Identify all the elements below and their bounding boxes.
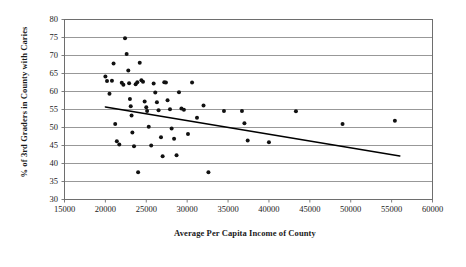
y-tick-label: 40 xyxy=(34,159,58,168)
x-tick-label: 60000 xyxy=(411,205,455,214)
plot-svg xyxy=(64,19,433,200)
data-point xyxy=(172,137,176,141)
data-point xyxy=(242,121,246,125)
data-point xyxy=(147,125,151,129)
data-point xyxy=(153,91,157,95)
plot-area xyxy=(64,19,433,200)
y-tick-label: 50 xyxy=(34,123,58,132)
y-tick-label: 45 xyxy=(34,141,58,150)
data-point xyxy=(123,36,127,40)
x-tick-label: 20000 xyxy=(83,205,127,214)
x-tick-label: 40000 xyxy=(247,205,291,214)
x-tick-label: 30000 xyxy=(165,205,209,214)
data-point xyxy=(267,140,271,144)
data-points xyxy=(103,36,396,174)
y-tick-label: 35 xyxy=(34,177,58,186)
data-point xyxy=(121,83,125,87)
y-tick-label: 65 xyxy=(34,69,58,78)
data-point xyxy=(105,79,109,83)
data-point xyxy=(152,82,156,86)
data-point xyxy=(166,98,170,102)
data-point xyxy=(145,109,149,113)
data-point xyxy=(110,79,114,83)
data-point xyxy=(202,104,206,108)
data-point xyxy=(127,81,131,85)
data-point xyxy=(136,170,140,174)
data-point xyxy=(115,139,119,143)
y-tick-label: 60 xyxy=(34,87,58,96)
data-point xyxy=(135,80,139,84)
data-point xyxy=(341,122,345,126)
data-point xyxy=(113,122,117,126)
scatter-chart-figure: % of 3rd Graders in County with Caries 3… xyxy=(0,0,466,267)
x-tick-label: 35000 xyxy=(206,205,250,214)
data-point xyxy=(195,116,199,120)
y-tick-label: 75 xyxy=(34,33,58,42)
data-point xyxy=(143,100,147,104)
data-point xyxy=(393,119,397,123)
y-tick-label: 80 xyxy=(34,15,58,24)
data-point xyxy=(132,144,136,148)
data-point xyxy=(126,69,130,73)
data-point xyxy=(164,81,168,85)
data-point xyxy=(125,52,129,56)
x-tick-label: 55000 xyxy=(370,205,414,214)
x-tick-label: 15000 xyxy=(43,205,87,214)
data-point xyxy=(141,80,145,84)
x-tick-label: 45000 xyxy=(288,205,332,214)
y-tick-label: 30 xyxy=(34,195,58,204)
data-point xyxy=(130,114,134,118)
data-point xyxy=(177,90,181,94)
data-point xyxy=(157,108,161,112)
data-point xyxy=(206,170,210,174)
data-point xyxy=(117,142,121,146)
gridlines xyxy=(65,20,433,182)
data-point xyxy=(175,153,179,157)
data-point xyxy=(161,154,165,158)
x-tick-label: 25000 xyxy=(124,205,168,214)
data-point xyxy=(155,100,159,104)
data-point xyxy=(149,144,153,148)
data-point xyxy=(186,132,190,136)
data-point xyxy=(240,109,244,113)
data-point xyxy=(112,61,116,65)
data-point xyxy=(190,81,194,85)
data-point xyxy=(170,127,174,131)
data-point xyxy=(103,74,107,78)
data-point xyxy=(222,109,226,113)
data-point xyxy=(294,109,298,113)
data-point xyxy=(144,105,148,109)
y-tick-label: 70 xyxy=(34,51,58,60)
data-point xyxy=(128,97,132,101)
data-point xyxy=(138,61,142,65)
y-axis-title: % of 3rd Graders in County with Caries xyxy=(16,2,32,202)
data-point xyxy=(130,131,134,135)
data-point xyxy=(159,135,163,139)
data-point xyxy=(182,108,186,112)
data-point xyxy=(246,138,250,142)
trend-line xyxy=(105,107,399,156)
data-point xyxy=(107,92,111,96)
y-tick-label: 55 xyxy=(34,105,58,114)
x-tick-label: 50000 xyxy=(329,205,373,214)
x-axis-title: Average Per Capita Income of County xyxy=(55,228,435,238)
data-point xyxy=(168,107,172,111)
data-point xyxy=(129,104,133,108)
